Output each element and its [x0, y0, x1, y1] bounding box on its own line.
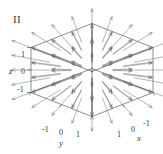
z-tick-label-neg1: -1 — [17, 86, 24, 94]
vector-field-figure — [0, 0, 163, 154]
y-axis-name: y — [59, 139, 63, 148]
panel-label: II — [13, 14, 21, 25]
x-tick-label-0: 0 — [131, 126, 135, 134]
y-tick-label-0: 0 — [59, 129, 63, 137]
y-tick-label-1: 1 — [76, 131, 80, 139]
x-axis-name: x — [137, 134, 141, 143]
z-axis-name: z — [9, 67, 13, 76]
x-tick-label-neg1: -1 — [143, 120, 150, 128]
z-tick-label-0: 0 — [21, 68, 25, 76]
z-tick-label-1: 1 — [21, 51, 25, 59]
x-tick-label-1: 1 — [117, 131, 121, 139]
vector-field-canvas — [0, 0, 163, 154]
y-tick-label-neg1: -1 — [42, 126, 49, 134]
